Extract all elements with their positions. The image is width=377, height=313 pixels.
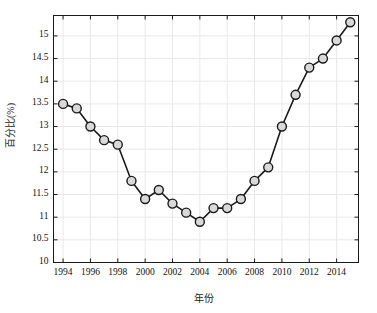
y-axis-tick-label: 13 <box>39 120 49 130</box>
data-point-marker <box>195 217 204 226</box>
data-point-marker <box>113 140 122 149</box>
y-axis-tick-label: 11.5 <box>32 188 48 198</box>
data-point-marker <box>168 199 177 208</box>
y-axis-tick-label: 10 <box>39 256 49 266</box>
data-point-marker <box>154 185 163 194</box>
data-point-marker <box>59 99 68 108</box>
data-point-marker <box>236 195 245 204</box>
data-point-marker <box>127 176 136 185</box>
y-axis-label-text: 百分比(%) <box>5 103 16 148</box>
y-axis-tick-label: 15 <box>39 29 49 39</box>
y-axis-label: 百分比(%) <box>2 91 17 161</box>
x-axis-tick-label: 2014 <box>317 267 357 277</box>
y-axis-tick-label: 11 <box>39 211 48 221</box>
data-point-marker <box>86 122 95 131</box>
y-axis-tick-label: 14.5 <box>32 52 49 62</box>
data-point-marker <box>100 136 109 145</box>
data-point-marker <box>72 104 81 113</box>
data-line <box>63 22 350 221</box>
series-line <box>63 22 350 221</box>
chart-figure: 百分比(%) 年份 1010.51111.51212.51313.51414.5… <box>0 0 377 313</box>
data-point-marker <box>223 204 232 213</box>
data-point-marker <box>250 176 259 185</box>
data-point-marker <box>182 208 191 217</box>
x-axis-label: 年份 <box>0 290 377 305</box>
y-axis-tick-label: 10.5 <box>32 233 49 243</box>
data-point-marker <box>209 204 218 213</box>
data-point-marker <box>291 90 300 99</box>
y-axis-tick-label: 13.5 <box>32 97 49 107</box>
data-point-marker <box>332 36 341 45</box>
data-point-marker <box>141 195 150 204</box>
y-axis-tick-label: 14 <box>39 75 49 85</box>
data-point-marker <box>277 122 286 131</box>
data-point-marker <box>318 54 327 63</box>
y-axis-tick-label: 12 <box>39 165 49 175</box>
y-axis-tick-label: 12.5 <box>32 143 49 153</box>
data-point-marker <box>305 63 314 72</box>
data-point-marker <box>346 18 355 27</box>
data-point-marker <box>264 163 273 172</box>
x-axis-label-text: 年份 <box>164 293 214 304</box>
